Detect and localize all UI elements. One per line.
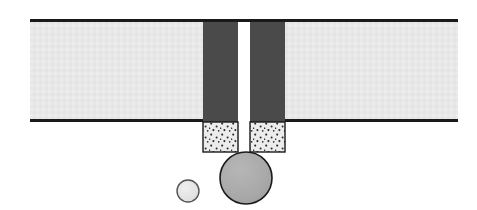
stippled-deposit-left [203,122,238,152]
stippled-deposit-right [250,122,285,152]
substrate-left-band [30,21,203,122]
nozzle-wall-left [203,20,238,122]
small-droplet [177,180,199,202]
nozzle-wall-right [250,20,285,122]
substrate-right-band [285,21,458,122]
cross-section-diagram: Cross-section schematic of a slot nozzle… [0,0,477,210]
large-droplet [220,152,272,204]
figure-canvas: Cross-section schematic of a slot nozzle… [0,0,477,210]
